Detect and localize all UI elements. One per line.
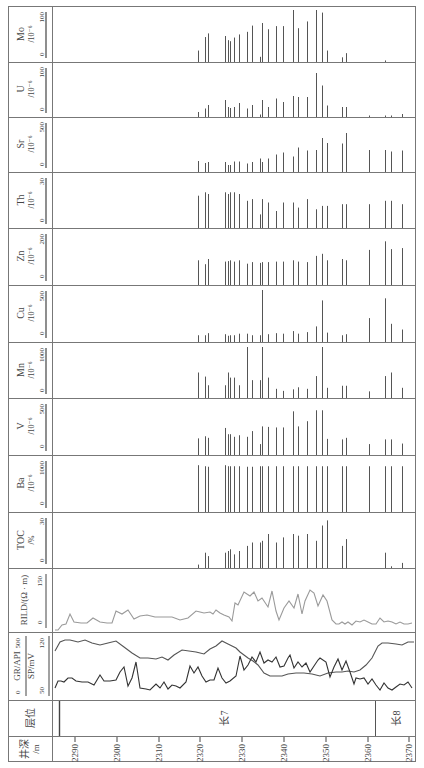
svg-text:井深: 井深 xyxy=(18,739,30,759)
header-mn: Mn /10⁻⁶ 0 1000 xyxy=(15,348,46,393)
header-zn: Zn /10⁻⁶ 0 200 xyxy=(15,234,46,279)
track-headers: Mo /10⁻⁶ 0 100 U /10⁻⁶ 0 100 Sr /10⁻⁶ 0 … xyxy=(12,12,49,760)
svg-text:/10⁻⁶: /10⁻⁶ xyxy=(27,304,36,321)
svg-text:0: 0 xyxy=(38,501,46,505)
svg-text:500: 500 xyxy=(38,291,46,302)
svg-text:/m: /m xyxy=(31,744,41,754)
svg-text:100: 100 xyxy=(38,67,46,78)
svg-text:0: 0 xyxy=(38,162,46,166)
header-depth: 井深 /m xyxy=(18,739,41,759)
header-cu: Cu /10⁻⁶ 0 500 xyxy=(15,291,46,336)
svg-text:200: 200 xyxy=(38,234,46,245)
svg-text:/10⁻⁶: /10⁻⁶ xyxy=(27,417,36,434)
header-mo: Mo /10⁻⁶ 0 100 xyxy=(15,12,46,57)
svg-text:30: 30 xyxy=(38,518,46,526)
header-mo-unit: /10⁻⁶ xyxy=(27,25,36,42)
svg-text:30: 30 xyxy=(38,178,46,186)
svg-text:0: 0 xyxy=(38,388,46,392)
rild-curve xyxy=(55,590,412,630)
svg-text:1000: 1000 xyxy=(38,348,46,363)
svg-text:RILD/(Ω · m): RILD/(Ω · m) xyxy=(19,575,29,626)
header-toc: TOC /% 0 30 xyxy=(15,518,46,563)
svg-text:2310: 2310 xyxy=(154,744,164,763)
element-bars xyxy=(199,10,403,568)
header-u: U /10⁻⁶ 0 100 xyxy=(15,67,46,112)
svg-text:2340: 2340 xyxy=(279,744,289,763)
svg-text:500: 500 xyxy=(14,638,22,649)
header-v: V /10⁻⁶ 0 500 xyxy=(15,404,46,449)
svg-text:/10⁻⁶: /10⁻⁶ xyxy=(27,247,36,264)
depth-axis: 2290 2300 2310 2320 2330 2340 2350 2360 … xyxy=(70,737,414,762)
svg-text:0: 0 xyxy=(38,107,46,111)
svg-text:2360: 2360 xyxy=(363,744,373,763)
svg-text:/10⁻⁶: /10⁻⁶ xyxy=(27,361,36,378)
svg-text:GR/API: GR/API xyxy=(12,651,22,681)
svg-text:2300: 2300 xyxy=(112,744,122,763)
svg-text:0: 0 xyxy=(38,331,46,335)
svg-text:/%: /% xyxy=(27,535,36,544)
svg-text:2290: 2290 xyxy=(70,744,80,763)
svg-text:Zn: Zn xyxy=(15,250,26,261)
svg-text:2350: 2350 xyxy=(321,744,331,763)
svg-text:0: 0 xyxy=(38,274,46,278)
header-mo-max: 100 xyxy=(38,12,46,23)
svg-text:TOC: TOC xyxy=(15,530,26,550)
svg-text:SP/mV: SP/mV xyxy=(26,652,36,679)
svg-text:Sr: Sr xyxy=(15,139,26,149)
layer-column: 长7 长8 xyxy=(60,701,403,736)
svg-text:V: V xyxy=(15,422,26,430)
svg-text:1000: 1000 xyxy=(38,461,46,476)
layer-c7: 长7 xyxy=(219,711,230,726)
header-th: Th /10⁻⁶ 0 30 xyxy=(15,178,46,223)
svg-text:Th: Th xyxy=(15,194,26,205)
svg-text:/10⁻⁶: /10⁻⁶ xyxy=(27,80,36,97)
layer-c8: 长8 xyxy=(391,711,402,726)
svg-text:/10⁻⁶: /10⁻⁶ xyxy=(27,474,36,491)
svg-text:/10⁻⁶: /10⁻⁶ xyxy=(27,191,36,208)
svg-text:Ba: Ba xyxy=(15,477,26,489)
header-mo-min: 0 xyxy=(38,52,46,56)
svg-text:2320: 2320 xyxy=(195,744,205,763)
svg-text:500: 500 xyxy=(38,122,46,133)
svg-text:0: 0 xyxy=(14,690,22,694)
track-dividers xyxy=(8,63,416,737)
svg-text:层位: 层位 xyxy=(24,708,36,728)
svg-text:0: 0 xyxy=(38,218,46,222)
header-ba: Ba /10⁻⁶ 0 1000 xyxy=(15,461,46,506)
svg-text:0: 0 xyxy=(38,444,46,448)
svg-text:50: 50 xyxy=(38,687,46,695)
header-mo-name: Mo xyxy=(15,27,26,41)
svg-text:0: 0 xyxy=(36,620,44,624)
svg-text:0: 0 xyxy=(38,558,46,562)
svg-text:2330: 2330 xyxy=(237,744,247,763)
well-log-figure: Mo /10⁻⁶ 0 100 U /10⁻⁶ 0 100 Sr /10⁻⁶ 0 … xyxy=(0,0,424,768)
svg-text:500: 500 xyxy=(38,404,46,415)
header-rild: RILD/(Ω · m) 0 150 xyxy=(19,575,44,626)
gr-curve xyxy=(55,640,414,676)
svg-text:120: 120 xyxy=(38,638,46,649)
svg-text:2370: 2370 xyxy=(404,744,414,763)
header-gr-sp: GR/API 0 500 SP/mV 50 120 xyxy=(12,638,46,695)
svg-text:Mn: Mn xyxy=(15,363,26,377)
svg-text:Cu: Cu xyxy=(15,307,26,319)
header-sr: Sr /10⁻⁶ 0 500 xyxy=(15,122,46,167)
svg-text:U: U xyxy=(15,85,26,93)
header-layer: 层位 xyxy=(24,708,36,728)
svg-text:150: 150 xyxy=(36,576,44,587)
svg-text:/10⁻⁶: /10⁻⁶ xyxy=(27,135,36,152)
